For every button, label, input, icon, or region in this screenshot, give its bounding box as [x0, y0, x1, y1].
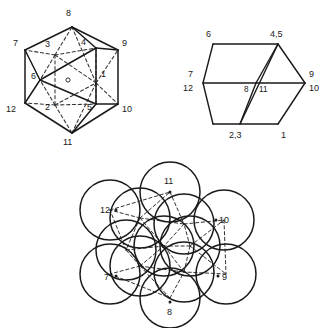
- figure-icosahedron: 1 2 3 4 5 6 7 8 9 10 11 12: [0, 0, 170, 160]
- vertex-label-2: 2: [45, 102, 50, 112]
- hex-label-10: 10: [309, 83, 319, 93]
- sphere-label-11: 11: [164, 176, 173, 186]
- figure-sphere-packing: 11 12 10 7 9 8: [78, 162, 263, 328]
- hexagon-drawing: 6 4,5 7 12 8 11 9 10 2,3 1: [178, 12, 335, 147]
- vertex-label-11: 11: [63, 137, 72, 147]
- figure-hexagon-projection: 6 4,5 7 12 8 11 9 10 2,3 1: [178, 12, 335, 147]
- icosahedron-drawing: 1 2 3 4 5 6 7 8 9 10 11 12: [0, 0, 170, 160]
- hex-label-11: 11: [259, 85, 268, 94]
- hex-label-12: 12: [183, 83, 193, 93]
- hex-label-8: 8: [244, 85, 249, 94]
- vertex-label-10: 10: [122, 104, 132, 114]
- hex-label-2-3: 2,3: [229, 130, 242, 140]
- vertex-label-3: 3: [45, 39, 50, 49]
- icosahedron-visible-edges: [25, 27, 118, 133]
- vertex-label-9: 9: [122, 38, 127, 48]
- cluster-centre-marker: [66, 78, 70, 82]
- sphere-label-9: 9: [222, 272, 227, 282]
- vertex-label-1: 1: [101, 69, 106, 79]
- sphere-outlines: [80, 162, 256, 328]
- sphere-label-12: 12: [100, 205, 110, 215]
- sphere-packing-drawing: 11 12 10 7 9 8: [78, 162, 263, 328]
- vertex-label-6: 6: [31, 71, 36, 81]
- hex-label-1: 1: [281, 130, 286, 140]
- vertex-label-8: 8: [66, 8, 71, 18]
- hex-label-6: 6: [206, 29, 211, 39]
- sphere-label-7: 7: [104, 272, 109, 282]
- sphere-label-10: 10: [219, 215, 229, 225]
- hexagon-edges: [203, 44, 305, 124]
- hex-label-7: 7: [188, 69, 193, 79]
- hex-label-9: 9: [309, 69, 314, 79]
- vertex-label-12: 12: [6, 104, 16, 114]
- vertex-label-4: 4: [81, 37, 86, 47]
- hex-label-4-5: 4,5: [270, 29, 283, 39]
- sphere-label-8: 8: [167, 307, 172, 317]
- vertex-label-7: 7: [13, 38, 18, 48]
- sphere-inner-left: [96, 220, 156, 280]
- vertex-label-5: 5: [87, 102, 92, 112]
- figure-plate: 1 2 3 4 5 6 7 8 9 10 11 12: [0, 0, 335, 328]
